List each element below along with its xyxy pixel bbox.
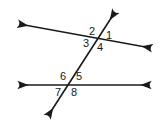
angle-label-8: 8 <box>71 87 77 98</box>
angle-label-2: 2 <box>89 26 95 37</box>
angle-label-7: 7 <box>55 87 61 98</box>
angle-label-5: 5 <box>76 71 82 82</box>
angles-svg <box>0 0 160 127</box>
transversal-line <box>48 12 115 116</box>
line-group <box>19 12 151 116</box>
angle-label-1: 1 <box>106 30 112 41</box>
angle-label-3: 3 <box>83 38 89 49</box>
geometry-diagram: 1 2 3 4 5 6 7 8 <box>0 0 160 127</box>
angle-label-6: 6 <box>60 71 66 82</box>
angle-label-4: 4 <box>97 42 103 53</box>
